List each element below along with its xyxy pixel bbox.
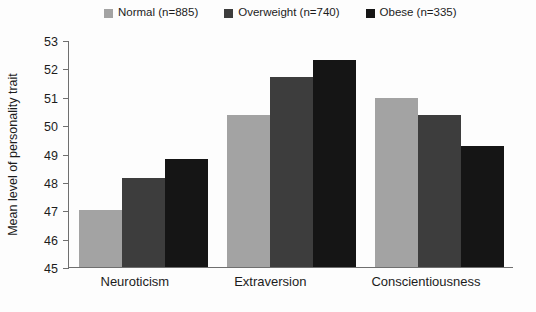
bar <box>79 210 122 267</box>
bar-group-neuroticism <box>79 41 208 267</box>
bar-chart-figure: Normal (n=885) Overweight (n=740) Obese … <box>0 0 536 312</box>
bar <box>227 115 270 267</box>
bar <box>270 77 313 267</box>
bar-group-extraversion <box>227 41 356 267</box>
x-axis-label: Neuroticism <box>101 274 170 289</box>
legend-entry-obese: Obese (n=335) <box>366 7 457 19</box>
y-axis-tick-label: 48 <box>44 178 58 191</box>
legend-swatch-normal <box>104 9 113 18</box>
legend-label-obese: Obese (n=335) <box>380 7 457 19</box>
legend-swatch-obese <box>366 9 375 18</box>
bar <box>418 115 461 267</box>
bar <box>313 60 356 267</box>
legend-swatch-overweight <box>224 9 233 18</box>
x-axis-label: Extraversion <box>234 274 306 289</box>
legend-label-normal: Normal (n=885) <box>118 7 198 19</box>
plot-area: 535251504948474645 <box>68 41 513 268</box>
y-axis-tick-label: 52 <box>44 64 58 77</box>
y-axis-tick-label: 51 <box>44 93 58 106</box>
bar <box>122 178 165 267</box>
y-axis-tick: 45 <box>63 268 69 269</box>
bar <box>461 146 504 267</box>
legend-label-overweight: Overweight (n=740) <box>238 7 339 19</box>
y-axis-tick-label: 46 <box>44 234 58 247</box>
chart-legend: Normal (n=885) Overweight (n=740) Obese … <box>104 4 457 22</box>
x-axis-labels: NeuroticismExtraversionConscientiousness <box>68 274 513 289</box>
x-axis-label: Conscientiousness <box>371 274 480 289</box>
bar-group-conscientiousness <box>375 41 504 267</box>
bar-groups <box>69 41 513 267</box>
legend-entry-overweight: Overweight (n=740) <box>224 7 339 19</box>
y-axis-tick-label: 47 <box>44 206 58 219</box>
y-axis-title: Mean level of personality trait <box>4 41 22 268</box>
y-axis-tick-label: 53 <box>44 36 58 49</box>
legend-entry-normal: Normal (n=885) <box>104 7 198 19</box>
bar <box>375 98 418 267</box>
y-axis-tick-label: 50 <box>44 121 58 134</box>
bar <box>165 159 208 267</box>
y-axis-tick-label: 49 <box>44 149 58 162</box>
y-axis-tick-label: 45 <box>44 263 58 276</box>
